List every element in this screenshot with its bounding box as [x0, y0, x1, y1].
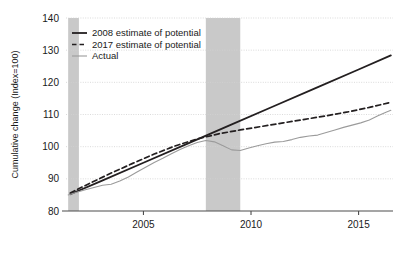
x-tick-label-2015: 2015	[347, 219, 370, 230]
legend-label-1: 2017 estimate of potential	[92, 39, 201, 50]
y-tick-label-120: 120	[42, 77, 59, 88]
y-axis-title: Cumulative change (Index=100)	[10, 51, 20, 179]
x-tick-label-2005: 2005	[132, 219, 155, 230]
y-tick-label-100: 100	[42, 141, 59, 152]
y-tick-label-90: 90	[48, 173, 60, 184]
y-tick-label-80: 80	[48, 206, 60, 217]
x-tick-label-2010: 2010	[240, 219, 263, 230]
y-tick-label-110: 110	[43, 109, 59, 120]
chart-figure: 8090100110120130140200520102015Cumulativ…	[0, 0, 409, 261]
chart-plot-area: 8090100110120130140200520102015Cumulativ…	[0, 0, 409, 261]
legend-label-2: Actual	[92, 50, 118, 61]
legend-label-0: 2008 estimate of potential	[92, 27, 201, 38]
y-tick-label-130: 130	[42, 45, 59, 56]
y-tick-label-140: 140	[42, 13, 59, 24]
